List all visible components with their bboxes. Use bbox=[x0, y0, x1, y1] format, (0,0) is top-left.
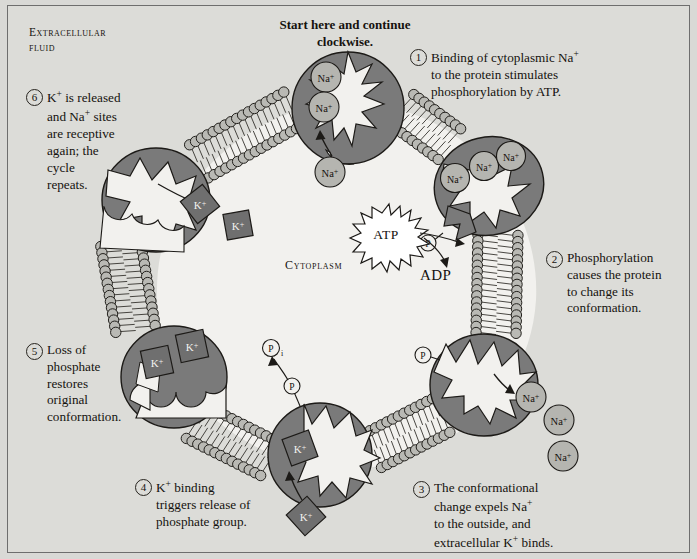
step-2-text: Phosphorylationcauses the proteinto chan… bbox=[567, 250, 696, 317]
lipid-head bbox=[455, 124, 465, 134]
svg-text:ATP: ATP bbox=[373, 227, 399, 242]
svg-text:P: P bbox=[268, 344, 273, 354]
svg-text:P: P bbox=[289, 382, 294, 392]
step-6-text: K+ is releasedand Na+ sitesare receptive… bbox=[47, 88, 176, 193]
step-6-number: 6 bbox=[26, 89, 43, 106]
step-4-text: K+ bindingtriggers release ofphosphate g… bbox=[156, 478, 345, 531]
potassium-ion-bound: K+ bbox=[175, 329, 208, 362]
step-5-text: Loss ofphosphaterestoresoriginalconforma… bbox=[47, 342, 156, 426]
svg-text:P: P bbox=[420, 351, 425, 361]
step-3-text: The conformationalchange expels Na+to th… bbox=[434, 480, 613, 552]
potassium-ion-released: K+ bbox=[223, 210, 253, 240]
lipid-head bbox=[279, 87, 289, 97]
diagram-canvas: Na+ Na+ Na+ Na+ Na+ Na+ P bbox=[0, 0, 697, 559]
step-1-text: Binding of cytoplasmic Na+to the protein… bbox=[431, 48, 640, 101]
step-5-annotation: 5 Loss ofphosphaterestoresoriginalconfor… bbox=[26, 342, 156, 426]
step-3-number: 3 bbox=[413, 481, 430, 498]
lipid-head bbox=[445, 427, 455, 437]
extracellular-fluid-label: Extracellular fluid bbox=[29, 25, 159, 55]
step-1-number: 1 bbox=[410, 49, 427, 66]
step-6-annotation: 6 K+ is releasedand Na+ sitesare recepti… bbox=[26, 88, 176, 193]
step-2-annotation: 2 Phosphorylationcauses the proteinto ch… bbox=[546, 250, 696, 317]
adp-label: ADP bbox=[420, 266, 451, 284]
lipid-head bbox=[511, 328, 521, 338]
cytoplasm-label: Cytoplasm bbox=[285, 258, 342, 273]
step-4-number: 4 bbox=[135, 479, 152, 496]
step-1-annotation: 1 Binding of cytoplasmic Na+to the prote… bbox=[410, 48, 640, 101]
step-5-number: 5 bbox=[26, 343, 43, 360]
step-4-annotation: 4 K+ bindingtriggers release ofphosphate… bbox=[135, 478, 345, 531]
step-2-number: 2 bbox=[546, 251, 563, 268]
step-3-annotation: 3 The conformationalchange expels Na+to … bbox=[413, 480, 613, 552]
start-instruction: Start here and continue clockwise. bbox=[255, 17, 435, 51]
lipid-head bbox=[111, 327, 121, 337]
